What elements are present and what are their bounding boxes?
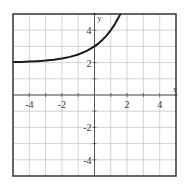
y-axis-label: y [98, 14, 102, 23]
y-tick-label: 2 [87, 58, 92, 69]
y-tick-label: -4 [83, 155, 91, 166]
function-graph: -4-224-4-224xy [0, 0, 188, 185]
x-tick-label: 2 [125, 99, 130, 110]
y-tick-label: 4 [87, 25, 92, 36]
y-tick-label: -2 [83, 122, 91, 133]
x-tick-label: -4 [25, 99, 33, 110]
x-tick-label: 4 [157, 99, 162, 110]
x-tick-label: -2 [58, 99, 66, 110]
